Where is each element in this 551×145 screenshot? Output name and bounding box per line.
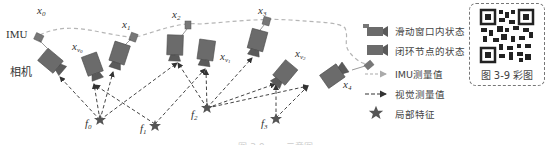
- camera-xv0: [81, 52, 105, 82]
- camera-x0: [38, 48, 68, 77]
- feature-f3: [270, 113, 282, 124]
- legend-imu-measurement: IMU测量值: [395, 67, 443, 81]
- loop-node-camera-icon: [367, 44, 388, 56]
- imu-x4: [364, 60, 374, 70]
- label-xv0: xv0: [71, 40, 83, 54]
- label-x4: x4: [342, 78, 352, 92]
- qr-code-panel[interactable]: 图 3-9 彩图: [469, 3, 545, 86]
- label-x3: x3: [257, 4, 267, 18]
- imu-label: IMU: [6, 28, 27, 40]
- label-f0: f0: [85, 117, 92, 131]
- feature-f1: [149, 120, 161, 131]
- legend-local-feature: 局部特征: [395, 107, 435, 121]
- camera-x1: [107, 41, 130, 71]
- label-f1: f1: [140, 122, 147, 136]
- label-x0: x0: [36, 4, 46, 18]
- label-f3: f3: [261, 117, 268, 131]
- legend-loop-node: 闭环节点的状态: [395, 44, 465, 58]
- camera-xv2: [269, 60, 298, 90]
- label-f2: f2: [191, 108, 198, 122]
- label-xv2: xv2: [294, 47, 306, 61]
- camera-x2: [167, 35, 184, 62]
- figure-caption: 图 3-9 ……示意图: [0, 140, 551, 145]
- star-icon: [369, 106, 383, 119]
- qr-caption: 图 3-9 彩图: [470, 67, 544, 82]
- legend-icons: [363, 24, 388, 119]
- legend-sliding-window: 滑动窗口内状态: [395, 24, 465, 38]
- camera-label: 相机: [10, 63, 32, 79]
- imu-x2: [185, 21, 191, 29]
- sliding-window-camera-icon: [363, 24, 388, 37]
- legend-visual-measurement: 视觉测量值: [395, 87, 445, 101]
- camera-x3: [246, 28, 268, 57]
- label-xv1: xv1: [219, 50, 231, 64]
- camera-xv1: [196, 39, 215, 67]
- diagram-canvas: x0 x1 x2 x3 x4 xv0 xv1 xv2 f0 f1 f2 f3 I…: [0, 0, 551, 145]
- label-x1: x1: [121, 18, 130, 32]
- imu-x1: [129, 32, 138, 42]
- label-x2: x2: [171, 8, 181, 22]
